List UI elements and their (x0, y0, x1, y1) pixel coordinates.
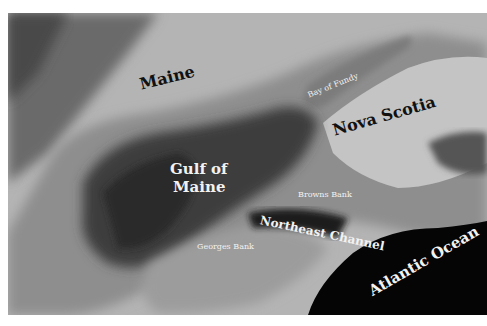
label-gulf-of-maine-line1: Gulf of (170, 160, 228, 178)
clipped-header-text (350, 0, 470, 4)
label-browns-bank: Browns Bank (298, 190, 352, 199)
label-georges-bank: Georges Bank (197, 242, 254, 251)
gulf-of-maine-map: Maine Bay of Fundy Nova Scotia Gulf of M… (8, 13, 487, 315)
label-gulf-of-maine-line2: Maine (173, 178, 225, 196)
